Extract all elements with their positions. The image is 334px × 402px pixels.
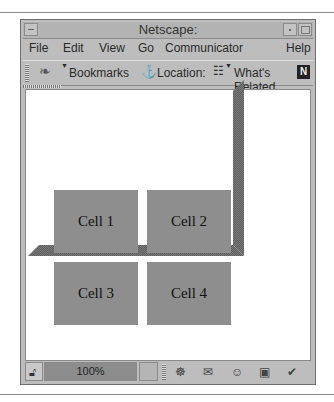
mail-icon[interactable]: ✉ <box>203 365 213 379</box>
progress-bar: 100% <box>44 362 137 381</box>
page-content: Cell 1 Cell 2 Cell 3 Cell 4 <box>25 89 311 361</box>
bottom-rule <box>0 394 334 395</box>
table-cell-2: Cell 2 <box>147 190 231 253</box>
table-cell-4: Cell 4 <box>147 262 231 325</box>
browser-window: Netscape: File Edit View Go Communicator… <box>20 19 316 385</box>
security-lock-icon[interactable]: 🔓︎ <box>25 362 43 381</box>
component-bar-grip[interactable] <box>162 364 166 380</box>
top-rule <box>0 12 334 13</box>
status-text-box <box>139 362 158 381</box>
table-cell-1: Cell 1 <box>54 190 138 253</box>
status-bar: 🔓︎ 100% ☸ ✉ ☺ ▣ ✔ <box>25 362 311 382</box>
navigator-icon[interactable]: ☸ <box>175 365 186 379</box>
address-book-icon[interactable]: ✔ <box>287 365 297 379</box>
table-cell-3: Cell 3 <box>54 262 138 325</box>
progress-text: 100% <box>45 365 136 377</box>
composer-icon[interactable]: ▣ <box>259 365 270 379</box>
discussion-icon[interactable]: ☺ <box>231 365 243 379</box>
